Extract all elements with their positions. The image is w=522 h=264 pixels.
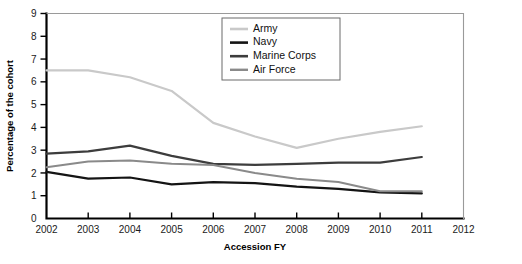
x-tick-label: 2009 bbox=[327, 224, 350, 235]
line-chart: 0123456789 20022003200420052006200720082… bbox=[0, 0, 522, 264]
legend-label-army: Army bbox=[253, 22, 278, 34]
y-tick-label: 1 bbox=[31, 190, 37, 201]
x-tick-label: 2003 bbox=[77, 224, 100, 235]
x-axis-title: Accession FY bbox=[224, 241, 287, 252]
y-axis-ticks: 0123456789 bbox=[31, 8, 47, 224]
y-tick-label: 5 bbox=[31, 99, 37, 110]
legend-label-navy: Navy bbox=[253, 35, 278, 47]
x-tick-label: 2007 bbox=[244, 224, 267, 235]
x-tick-label: 2006 bbox=[202, 224, 225, 235]
y-tick-label: 2 bbox=[31, 168, 37, 179]
x-tick-label: 2011 bbox=[411, 224, 433, 235]
series-line-army bbox=[47, 70, 422, 147]
y-tick-label: 0 bbox=[31, 213, 37, 224]
y-tick-label: 6 bbox=[31, 76, 37, 87]
series-line-navy bbox=[47, 172, 422, 194]
x-axis-ticks: 2002200320042005200620072008200920102011… bbox=[35, 213, 475, 235]
x-tick-label: 2002 bbox=[35, 224, 58, 235]
y-tick-label: 9 bbox=[31, 8, 37, 19]
legend-label-marine-corps: Marine Corps bbox=[253, 49, 316, 61]
y-axis-title: Percentage of the cohort bbox=[4, 59, 15, 172]
chart-figure: 0123456789 20022003200420052006200720082… bbox=[0, 0, 522, 264]
y-tick-label: 8 bbox=[31, 31, 37, 42]
x-tick-label: 2005 bbox=[160, 224, 183, 235]
data-series-group bbox=[47, 70, 422, 193]
y-tick-label: 3 bbox=[31, 145, 37, 156]
legend-label-air-force: Air Force bbox=[253, 63, 296, 75]
x-tick-label: 2004 bbox=[119, 224, 142, 235]
x-tick-label: 2010 bbox=[369, 224, 392, 235]
x-tick-label: 2008 bbox=[286, 224, 309, 235]
y-tick-label: 4 bbox=[31, 122, 37, 133]
y-tick-label: 7 bbox=[31, 54, 37, 65]
x-tick-label: 2012 bbox=[452, 224, 475, 235]
chart-legend: ArmyNavyMarine CorpsAir Force bbox=[222, 18, 340, 80]
